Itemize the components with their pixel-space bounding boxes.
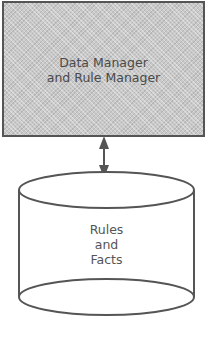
architecture-diagram: Data Manager and Rule Manager Rules and …: [0, 0, 209, 337]
rules-and-facts-label: Rules and Facts: [18, 222, 195, 267]
database-cylinder-icon: [0, 0, 209, 337]
